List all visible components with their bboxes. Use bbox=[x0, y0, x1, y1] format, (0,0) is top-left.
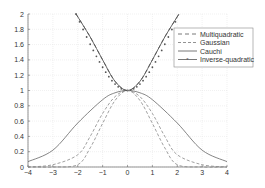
star-marker-icon bbox=[114, 83, 116, 85]
star-marker-icon bbox=[79, 21, 81, 23]
star-marker-icon bbox=[105, 71, 107, 73]
star-marker-icon bbox=[164, 43, 166, 45]
star-marker-icon bbox=[171, 29, 173, 31]
star-marker-icon bbox=[167, 36, 169, 38]
legend-label-inverse-quadratic: Inverse-quadratic bbox=[200, 56, 255, 64]
star-marker-icon bbox=[96, 55, 98, 57]
y-tick-label: 0.4 bbox=[14, 133, 24, 140]
y-tick-label: 0.2 bbox=[14, 148, 24, 155]
y-tick-label: 1 bbox=[20, 87, 24, 94]
star-marker-icon bbox=[102, 66, 104, 68]
star-marker-icon bbox=[161, 49, 163, 51]
y-tick-label: 2 bbox=[20, 11, 24, 18]
star-marker-icon bbox=[82, 29, 84, 31]
star-marker-icon bbox=[108, 76, 110, 78]
y-tick-label: 1.6 bbox=[14, 41, 24, 48]
star-marker-icon bbox=[175, 21, 177, 23]
x-tick-label: 4 bbox=[225, 169, 229, 176]
star-marker-icon bbox=[136, 86, 138, 88]
y-tick-label: 0.6 bbox=[14, 118, 24, 125]
x-tick-label: 1 bbox=[150, 169, 154, 176]
x-tick-label: −4 bbox=[24, 169, 32, 176]
star-marker-icon bbox=[151, 66, 153, 68]
y-tick-label: 1.2 bbox=[14, 72, 24, 79]
y-tick-label: 1.8 bbox=[14, 26, 24, 33]
x-tick-label: −1 bbox=[99, 169, 107, 176]
rbf-line-chart: −4−3−2−10123400.20.40.60.811.21.41.61.82… bbox=[0, 0, 265, 188]
legend-label-cauchi: Cauchi bbox=[200, 48, 222, 55]
star-marker-icon bbox=[117, 86, 119, 88]
star-marker-icon bbox=[89, 43, 91, 45]
y-tick-label: 0.8 bbox=[14, 102, 24, 109]
star-marker-icon bbox=[133, 88, 135, 90]
star-marker-icon bbox=[142, 80, 144, 82]
legend: Multiquadratic Gaussian Cauchi * Inverse… bbox=[174, 28, 255, 67]
star-marker-icon bbox=[86, 36, 88, 38]
star-marker-icon bbox=[130, 89, 132, 91]
star-marker-icon bbox=[148, 71, 150, 73]
star-marker-icon bbox=[145, 76, 147, 78]
star-marker-icon bbox=[92, 49, 94, 51]
x-tick-label: −3 bbox=[49, 169, 57, 176]
star-marker-icon bbox=[75, 13, 77, 15]
star-marker-icon bbox=[139, 83, 141, 85]
legend-label-multiquadratic: Multiquadratic bbox=[200, 31, 244, 39]
star-marker-icon bbox=[120, 88, 122, 90]
y-tick-label: 1.4 bbox=[14, 56, 24, 63]
x-tick-label: 0 bbox=[126, 169, 130, 176]
x-tick-label: 2 bbox=[175, 169, 179, 176]
x-tick-label: 3 bbox=[200, 169, 204, 176]
y-tick-label: 0 bbox=[20, 164, 24, 171]
x-tick-label: −2 bbox=[74, 169, 82, 176]
star-marker-icon bbox=[158, 55, 160, 57]
legend-label-gaussian: Gaussian bbox=[200, 39, 230, 46]
star-marker-icon bbox=[99, 61, 101, 63]
star-marker-icon bbox=[111, 80, 113, 82]
star-marker-icon bbox=[155, 61, 157, 63]
